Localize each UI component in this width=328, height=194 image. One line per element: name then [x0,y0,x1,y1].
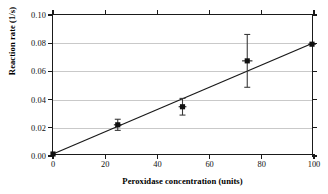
y-tick-label: 0.02 [31,123,46,132]
x-axis-title: Peroxidase concentration (units) [52,176,313,186]
x-tick-label: 60 [205,160,213,169]
data-layer [53,15,312,154]
y-tick-label: 0.10 [31,11,46,20]
x-tick-mark [261,154,262,159]
x-tick-label: 80 [258,160,266,169]
data-point-marker [180,104,185,109]
data-point-marker [115,122,120,127]
y-tick-label: 0.06 [31,67,46,76]
x-tick-label: 20 [101,160,109,169]
x-tick-mark [313,10,314,15]
x-tick-mark [209,154,210,159]
data-point-marker [50,151,55,156]
y-axis-title: Reaction rate (1/s) [7,0,17,101]
y-tick-mark [312,127,317,128]
plot-area: 0.000.020.040.060.080.10 020406080100 [52,14,313,155]
x-tick-label: 0 [51,160,55,169]
y-tick-label: 0.08 [31,39,46,48]
chart-figure: 0.000.020.040.060.080.10 020406080100 Pe… [0,0,328,194]
data-point-marker [245,58,250,63]
data-point-marker [309,42,314,47]
x-tick-label: 40 [153,160,161,169]
x-tick-mark [313,154,314,159]
x-tick-mark [157,154,158,159]
y-tick-mark [312,71,317,72]
y-tick-label: 0.04 [31,95,46,104]
x-tick-label: 100 [308,160,321,169]
y-tick-mark [312,99,317,100]
y-tick-label: 0.00 [31,152,46,161]
x-tick-mark [105,154,106,159]
